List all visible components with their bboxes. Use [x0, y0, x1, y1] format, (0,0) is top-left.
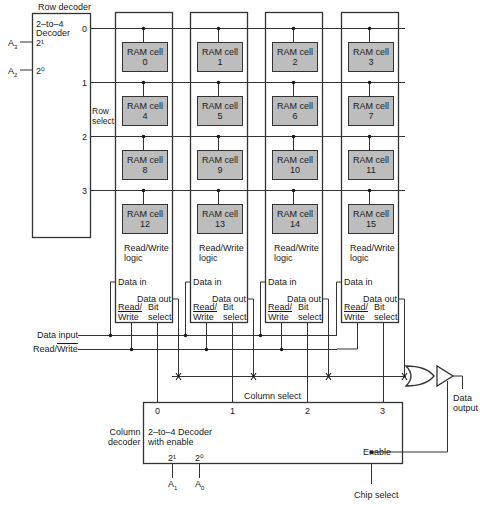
bit-select-label-3: Bitselect: [374, 302, 398, 322]
rw-logic-label-3: Read/Writelogic: [350, 243, 395, 263]
data-in-label-2: Data in: [268, 277, 297, 287]
rw-logic-label-0: Read/Writelogic: [124, 243, 169, 263]
data-input-label: Data input: [37, 330, 78, 340]
row-output-2: 2: [82, 132, 87, 142]
rw-pin-label-2: Read/Write: [268, 302, 292, 322]
rw-pin-label-3: Read/Write: [344, 302, 368, 322]
ram-cell-6: RAM cell6: [272, 96, 318, 126]
ram-cell-5: RAM cell5: [197, 96, 243, 126]
read-write-label: Read/Write: [33, 344, 78, 354]
output-buffer: [437, 366, 453, 386]
column-decoder-pin-2-1: 2¹: [168, 453, 176, 463]
ram-cell-2: RAM cell2: [272, 42, 318, 72]
column-decoder-label: Columndecoder: [108, 427, 141, 447]
chip-select-label: Chip select: [354, 490, 399, 500]
enable-label: Enable: [363, 447, 391, 457]
address-a0-label: A0: [195, 479, 204, 493]
ram-cell-12: RAM cell12: [122, 204, 168, 234]
data-in-label-3: Data in: [344, 277, 373, 287]
rw-pin-label-1: Read/Write: [193, 302, 217, 322]
bit-select-label-0: Bitselect: [148, 302, 172, 322]
address-a3-label: A3: [8, 38, 17, 52]
address-a1-label: A1: [168, 479, 177, 493]
ram-cell-3: RAM cell3: [348, 42, 394, 72]
rw-logic-label-1: Read/Writelogic: [199, 243, 244, 263]
column-output-3: 3: [380, 406, 385, 416]
column-select-label: Column select: [244, 391, 301, 401]
bit-select-label-2: Bitselect: [298, 302, 322, 322]
ram-cell-13: RAM cell13: [197, 204, 243, 234]
bit-select-label-1: Bitselect: [223, 302, 247, 322]
ram-cell-10: RAM cell10: [272, 150, 318, 180]
row-output-1: 1: [82, 78, 87, 88]
column-output-1: 1: [230, 406, 235, 416]
or-gate: [406, 366, 434, 386]
ram-cell-4: RAM cell4: [122, 96, 168, 126]
row-output-0: 0: [82, 24, 87, 34]
junction-dots: [109, 27, 374, 455]
row-output-3: 3: [82, 186, 87, 196]
ram-cell-8: RAM cell8: [122, 150, 168, 180]
ram-cell-1: RAM cell1: [197, 42, 243, 72]
ram-cell-9: RAM cell9: [197, 150, 243, 180]
column-decoder-type: 2–to–4 Decoderwith enable: [148, 427, 212, 447]
ram-cell-14: RAM cell14: [272, 204, 318, 234]
row-select-label: Row select: [92, 106, 114, 126]
row-decoder-pin-2-1: 2¹: [36, 38, 44, 48]
column-output-0: 0: [155, 406, 160, 416]
ram-cell-0: RAM cell0: [122, 42, 168, 72]
rw-pin-label-0: Read/Write: [118, 302, 142, 322]
ram-cell-15: RAM cell15: [348, 204, 394, 234]
row-decoder-type-line2: Decoder: [36, 28, 70, 38]
ram-cell-11: RAM cell11: [348, 150, 394, 180]
column-output-2: 2: [305, 406, 310, 416]
address-a2-label: A2: [8, 66, 17, 80]
row-decoder-title: Row decoder: [38, 2, 91, 12]
data-in-label-1: Data in: [193, 277, 222, 287]
data-in-label-0: Data in: [118, 277, 147, 287]
row-decoder-pin-2-0: 2⁰: [36, 66, 45, 76]
data-output-label: Dataoutput: [453, 393, 478, 413]
column-decoder-pin-2-0: 2⁰: [195, 453, 204, 463]
ram-cell-7: RAM cell7: [348, 96, 394, 126]
rw-logic-label-2: Read/Writelogic: [274, 243, 319, 263]
